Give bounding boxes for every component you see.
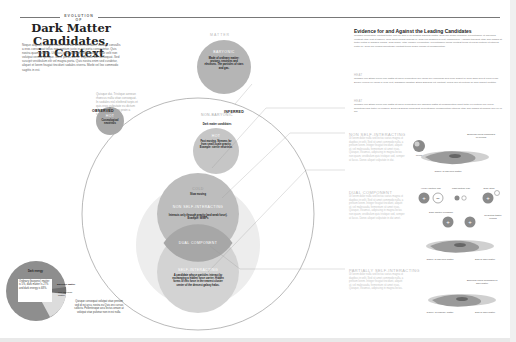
self-interacting-desc: A candidate whose particles interact by … xyxy=(172,274,224,287)
caption-dark-disk-2: Disk of dark matter xyxy=(472,311,498,314)
evidence-paragraph-1: Quisque fermentum volutpat tortor velit … xyxy=(354,34,504,48)
hot-observed-label: HOT xyxy=(98,114,122,118)
intro-paragraph: Neque aliquam volutpat mauris sed dui di… xyxy=(22,43,122,72)
hot-observed-desc: Cosmological neutrinos xyxy=(99,119,121,125)
section-body-non-self-interacting: Ut lorem dolor nulla sed lectus varius m… xyxy=(349,137,405,162)
matter-label: MATTER xyxy=(210,33,230,37)
evidence-paragraph-3: Quisque nec Etiam lorem non mattis at li… xyxy=(354,103,504,114)
caption-dark-photon: Dark photon exchange xyxy=(424,211,458,214)
non-self-interacting-label: NON SELF-INTERACTING xyxy=(170,205,226,209)
caption-resulting-clumps: Resulting tighter clumps xyxy=(484,214,502,220)
dual-component-label: DUAL COMPONENT xyxy=(170,241,226,245)
baryonic-desc: Made of ordinary matter: protons, neutro… xyxy=(204,57,244,70)
svg-text:+: + xyxy=(486,195,490,201)
caption-dark-atom: Dark atom xyxy=(480,187,498,190)
svg-text:+: + xyxy=(446,219,450,225)
caption-wimp: WIMP xyxy=(410,154,428,157)
svg-text:+: + xyxy=(468,219,472,225)
self-interacting-label: SELF-INTERACTING xyxy=(170,268,226,272)
caption-light-pair: Light particle pair xyxy=(448,187,474,190)
svg-text:−: − xyxy=(436,195,440,201)
caption-spherical-cloud: Spherical cloud composed of WIMPs xyxy=(466,133,496,139)
pie-label-non-baryonic: Non-baryonic matter xyxy=(58,291,74,297)
pie-label-dark-energy: Dark energy xyxy=(28,270,43,273)
section-body-dual-component: Ut lorem dolor nulla sed lectus varius m… xyxy=(349,195,405,220)
pie-label-baryonic: Baryonic matter xyxy=(57,283,75,286)
baryonic-label: BARYONIC xyxy=(200,50,248,54)
non-self-interacting-desc: Interacts only through gravity (and weak… xyxy=(168,214,228,220)
caption-spherical-cloud-2: Spherical cloud composed of dark matter xyxy=(466,279,498,285)
evidence-paragraph-2: Quisque nec Etiam lorem non mattis at li… xyxy=(354,77,504,84)
section-body-partially-self-interacting: Ut lorem dolor nulla sed lectus varius m… xyxy=(349,273,405,291)
observed-label: OBSERVED xyxy=(92,109,114,113)
pie-summary-box: Ordinary (baryonic) matter is 5%, dark m… xyxy=(18,279,52,302)
cold-label: COLD xyxy=(186,187,210,191)
svg-text:+: + xyxy=(422,195,426,201)
caption-heavy-pair: Heavy particle pair xyxy=(416,187,446,190)
non-baryonic-label: NON-BARYONIC xyxy=(196,113,238,117)
caption-galaxy-baryonic: Galaxy of baryonic matter xyxy=(428,170,468,173)
pie-note: Quisque consequat volutpat vitae pretium… xyxy=(74,300,124,314)
non-baryonic-desc: Dark matter candidates xyxy=(196,123,238,126)
caption-galaxy-baryonic-2: Galaxy of baryonic matter xyxy=(420,258,460,261)
hot-inferred-label: HOT xyxy=(200,134,232,138)
hot-inferred-desc: Fast moving. Streams far from small-scal… xyxy=(199,140,233,150)
cold-desc: Slow moving xyxy=(182,193,214,196)
caption-galaxy-ordinary: Galaxy of ordinary matter xyxy=(420,311,460,314)
caption-dark-disk: Disk of dark matter xyxy=(472,258,498,261)
